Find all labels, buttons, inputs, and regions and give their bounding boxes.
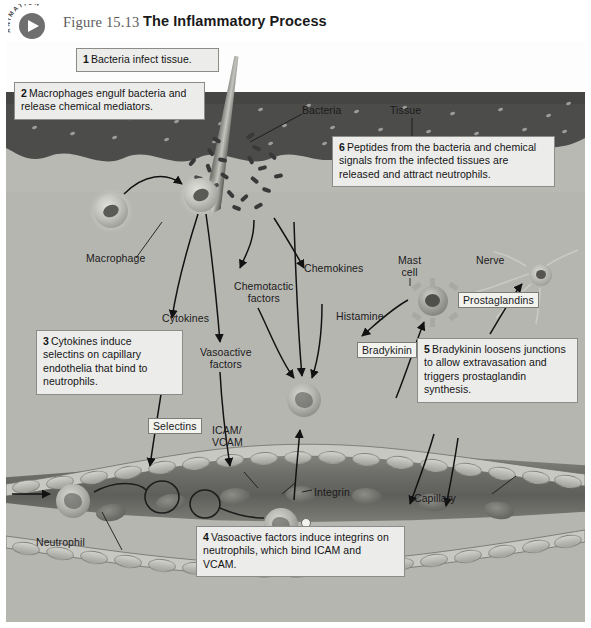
label-bradykinin: Bradykinin (357, 342, 417, 358)
callout-1-number: 1 (83, 53, 89, 65)
label-tissue: Tissue (390, 104, 421, 116)
label-chemokines: Chemokines (304, 262, 363, 274)
callout-6-number: 6 (339, 141, 345, 153)
callout-4-number: 4 (203, 531, 209, 543)
callout-2-number: 2 (21, 87, 27, 99)
figure-page: ANIMATION Figure 15.13 The Inflammatory … (0, 0, 591, 628)
label-vasoactive-factors: Vasoactive factors (200, 346, 252, 370)
callout-5-number: 5 (424, 343, 430, 355)
callout-2-text: Macrophages engulf bacteria and release … (21, 87, 186, 112)
label-capillary: Capillary (414, 492, 456, 504)
callout-6: 6Peptides from the bacteria and chemical… (332, 136, 555, 187)
callout-3: 3Cytokines induce selectins on capillary… (36, 330, 183, 395)
label-prostaglandins: Prostaglandins (458, 292, 539, 308)
label-cytokines: Cytokines (162, 312, 209, 324)
animation-badge[interactable]: ANIMATION (8, 4, 58, 42)
label-mast-cell: Mast cell (398, 254, 421, 278)
callout-3-number: 3 (43, 335, 49, 347)
callout-1-text: Bacteria infect tissue. (91, 53, 192, 65)
label-chemotactic-factors: Chemotactic factors (234, 280, 293, 304)
label-icam-vcam: ICAM/ VCAM (212, 424, 243, 448)
label-bacteria: Bacteria (302, 104, 341, 116)
illustration: Bacteria Tissue Macrophage Cytokines Vas… (6, 42, 585, 622)
play-icon (28, 20, 39, 32)
label-selectins: Selectins (148, 418, 202, 434)
label-histamine: Histamine (336, 310, 384, 322)
label-integrin: Integrin (314, 486, 350, 498)
label-macrophage: Macrophage (86, 252, 145, 264)
callout-5: 5Bradykinin loosens junctions to allow e… (417, 338, 578, 403)
callout-1: 1Bacteria infect tissue. (76, 48, 219, 72)
label-neutrophil: Neutrophil (36, 536, 85, 548)
callout-6-text: Peptides from the bacteria and chemical … (339, 141, 536, 180)
callout-5-text: Bradykinin loosens junctions to allow ex… (424, 343, 566, 395)
callout-2: 2Macrophages engulf bacteria and release… (14, 82, 205, 120)
callout-4: 4Vasoactive factors induce integrins on … (196, 526, 405, 577)
page-title: The Inflammatory Process (143, 13, 327, 29)
figure-header: ANIMATION Figure 15.13 The Inflammatory … (0, 0, 591, 42)
label-nerve: Nerve (476, 254, 505, 266)
figure-number: Figure 15.13 (63, 14, 140, 31)
callout-4-text: Vasoactive factors induce integrins on n… (203, 531, 389, 570)
callout-3-text: Cytokines induce selectins on capillary … (43, 335, 147, 387)
